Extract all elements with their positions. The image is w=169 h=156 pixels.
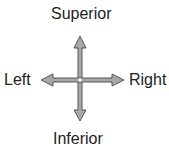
center-highlight [79,79,82,82]
cross-arrows-icon [0,0,169,156]
